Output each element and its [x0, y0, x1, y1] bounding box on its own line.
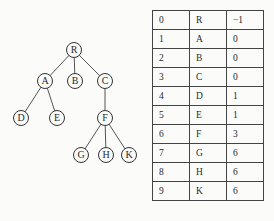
table-row: 8 H 6 — [153, 163, 264, 182]
parent-cell: 0 — [227, 30, 264, 49]
data-cell: A — [190, 30, 227, 49]
data-cell: E — [190, 106, 227, 125]
index-cell: 3 — [153, 68, 190, 87]
table-row: 4 D 1 — [153, 87, 264, 106]
data-cell: K — [190, 182, 227, 201]
index-cell: 8 — [153, 163, 190, 182]
parent-cell: −1 — [227, 11, 264, 30]
table-row: 2 B 0 — [153, 49, 264, 68]
index-cell: 2 — [153, 49, 190, 68]
tree-node-b: B — [67, 73, 83, 89]
tree-node-e: E — [49, 110, 65, 126]
parent-cell: 0 — [227, 49, 264, 68]
tree-node-d: D — [13, 110, 29, 126]
table-row: 5 E 1 — [153, 106, 264, 125]
parent-cell: 1 — [227, 106, 264, 125]
index-cell: 6 — [153, 125, 190, 144]
tree-diagram: R A B C D E F G H K — [0, 0, 140, 221]
data-cell: F — [190, 125, 227, 144]
parent-cell: 6 — [227, 182, 264, 201]
table-row: 0 R −1 — [153, 11, 264, 30]
data-cell: R — [190, 11, 227, 30]
parent-cell: 6 — [227, 163, 264, 182]
data-cell: B — [190, 49, 227, 68]
table-row: 6 F 3 — [153, 125, 264, 144]
index-cell: 5 — [153, 106, 190, 125]
tree-node-g: G — [73, 147, 89, 163]
tree-node-h: H — [98, 147, 114, 163]
index-cell: 9 — [153, 182, 190, 201]
index-cell: 0 — [153, 11, 190, 30]
table-row: 9 K 6 — [153, 182, 264, 201]
data-cell: C — [190, 68, 227, 87]
tree-node-k: K — [121, 147, 137, 163]
data-cell: D — [190, 87, 227, 106]
tree-node-f: F — [97, 110, 113, 126]
table-row: 3 C 0 — [153, 68, 264, 87]
parent-array-table: 0 R −1 1 A 0 2 B 0 3 C 0 4 D 1 5 E 1 — [152, 10, 264, 201]
data-cell: G — [190, 144, 227, 163]
index-cell: 4 — [153, 87, 190, 106]
parent-cell: 6 — [227, 144, 264, 163]
tree-node-a: A — [37, 73, 53, 89]
tree-node-c: C — [97, 73, 113, 89]
data-cell: H — [190, 163, 227, 182]
tree-node-r: R — [66, 42, 82, 58]
table-row: 1 A 0 — [153, 30, 264, 49]
parent-cell: 0 — [227, 68, 264, 87]
table-row: 7 G 6 — [153, 144, 264, 163]
parent-cell: 1 — [227, 87, 264, 106]
parent-cell: 3 — [227, 125, 264, 144]
index-cell: 1 — [153, 30, 190, 49]
index-cell: 7 — [153, 144, 190, 163]
